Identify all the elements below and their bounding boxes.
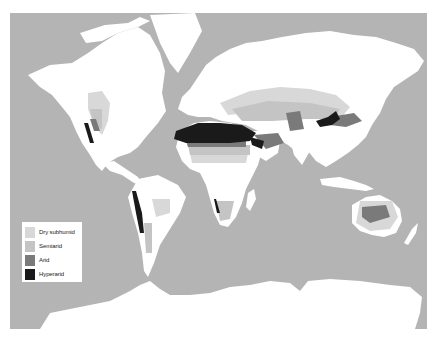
legend-swatch-semiarid: [25, 241, 35, 252]
legend-label: Arid: [39, 257, 49, 263]
map-legend: Dry subhumid Semiarid Arid Hyperarid: [22, 222, 82, 282]
legend-label: Semiarid: [39, 243, 62, 249]
legend-item-dry-subhumid: Dry subhumid: [25, 225, 79, 239]
legend-item-hyperarid: Hyperarid: [25, 267, 79, 281]
legend-swatch-arid: [25, 255, 35, 266]
legend-swatch-hyperarid: [25, 269, 35, 280]
legend-label: Dry subhumid: [39, 229, 75, 235]
legend-item-semiarid: Semiarid: [25, 239, 79, 253]
legend-item-arid: Arid: [25, 253, 79, 267]
legend-label: Hyperarid: [39, 271, 64, 277]
legend-swatch-dry-subhumid: [25, 227, 35, 238]
